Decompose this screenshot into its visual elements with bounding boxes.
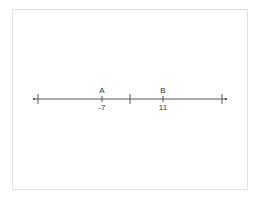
point-a-label: A [99,87,104,95]
number-line [0,0,260,198]
point-b-label: B [160,87,165,95]
point-a-value: -7 [98,104,105,112]
point-b-value: 11 [159,104,167,112]
